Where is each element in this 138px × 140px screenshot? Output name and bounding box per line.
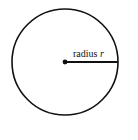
circle-diagram: radius r — [0, 0, 138, 140]
radius-label: radius r — [73, 48, 104, 59]
center-point — [63, 60, 68, 65]
